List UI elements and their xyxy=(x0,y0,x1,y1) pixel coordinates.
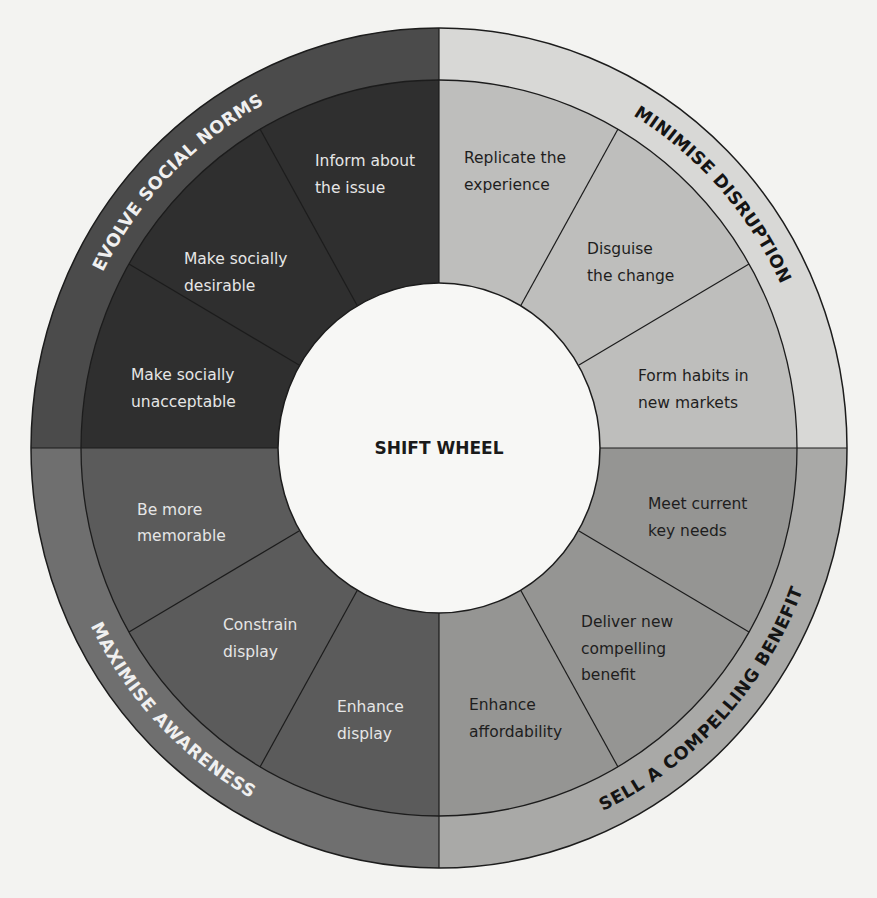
svg-text:Enhance: Enhance xyxy=(337,698,404,716)
svg-text:Disguise: Disguise xyxy=(587,240,653,258)
svg-text:desirable: desirable xyxy=(184,277,255,295)
svg-text:Constrain: Constrain xyxy=(223,616,297,634)
svg-text:Make socially: Make socially xyxy=(131,366,234,384)
svg-text:Deliver new: Deliver new xyxy=(581,613,673,631)
svg-text:Replicate the: Replicate the xyxy=(464,149,566,167)
svg-text:Form habits in: Form habits in xyxy=(638,367,749,385)
svg-text:Meet current: Meet current xyxy=(648,495,747,513)
svg-text:benefit: benefit xyxy=(581,666,636,684)
svg-text:compelling: compelling xyxy=(581,640,666,658)
svg-text:experience: experience xyxy=(464,176,550,194)
svg-text:Make socially: Make socially xyxy=(184,250,287,268)
svg-text:key needs: key needs xyxy=(648,522,727,540)
svg-text:the issue: the issue xyxy=(315,179,385,197)
svg-text:the change: the change xyxy=(587,267,674,285)
svg-text:new markets: new markets xyxy=(638,394,738,412)
svg-text:Enhance: Enhance xyxy=(469,696,536,714)
svg-text:display: display xyxy=(337,725,392,743)
shift-wheel-diagram: SHIFT WHEEL EVOLVE SOCIAL NORMS MINIMISE… xyxy=(0,0,877,898)
svg-text:memorable: memorable xyxy=(137,527,226,545)
center-title: SHIFT WHEEL xyxy=(375,438,504,458)
svg-text:display: display xyxy=(223,643,278,661)
svg-text:Inform about: Inform about xyxy=(315,152,415,170)
svg-text:affordability: affordability xyxy=(469,723,562,741)
svg-text:Be more: Be more xyxy=(137,501,202,519)
svg-text:unacceptable: unacceptable xyxy=(131,393,236,411)
